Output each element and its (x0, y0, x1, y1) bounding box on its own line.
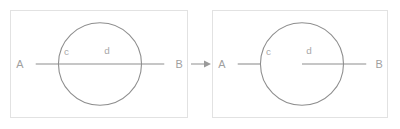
panel-before-figure: A B c d (11, 11, 187, 117)
label-point-a: A (16, 58, 24, 70)
label-point-a: A (218, 58, 226, 70)
label-segment-c: c (64, 46, 69, 57)
label-point-b: B (375, 58, 382, 70)
diagram-canvas: A B c d A B c d (0, 0, 400, 129)
panel-after-figure: A B c d (213, 11, 387, 117)
label-point-b: B (175, 58, 182, 70)
label-segment-c: c (266, 46, 271, 57)
right-arrow-icon (190, 57, 212, 71)
panel-after: A B c d (212, 10, 388, 118)
label-segment-d: d (306, 45, 312, 56)
panel-before: A B c d (10, 10, 188, 118)
label-segment-d: d (104, 45, 110, 56)
